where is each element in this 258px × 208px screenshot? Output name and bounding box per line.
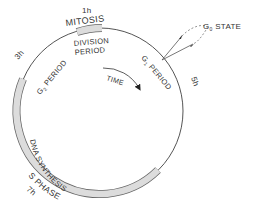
g0-loop (162, 25, 207, 60)
mitosis-duration: 1h (82, 6, 92, 15)
time-label: TIME (106, 74, 125, 86)
cell-cycle-diagram: 1h MITOSIS DIVISION PERIOD 3h G2 PERIOD … (0, 0, 258, 208)
g0-state-label: G0 STATE (203, 22, 241, 32)
g2-period-label: G2 PERIOD (35, 58, 70, 97)
g1-period-label: G1 PERIOD (139, 54, 174, 93)
g2-duration: 3h (13, 48, 26, 61)
g1-duration: 5h (189, 76, 201, 88)
period-label: PERIOD (74, 45, 106, 57)
